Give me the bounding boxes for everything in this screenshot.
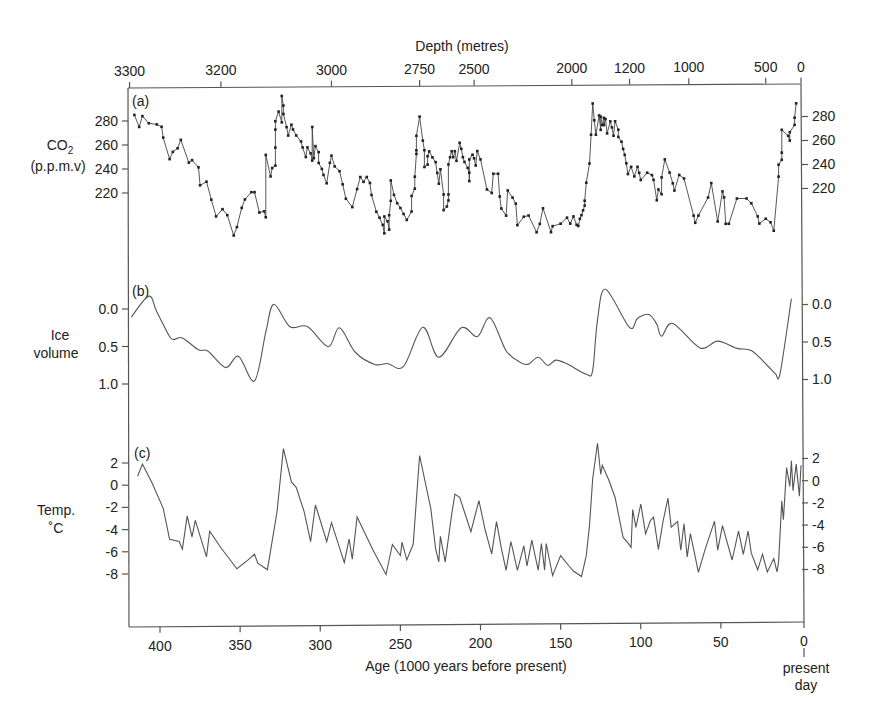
co2-data-point (617, 128, 620, 131)
temp-tick-left: 2 (110, 455, 118, 471)
temp-tick-right: -2 (812, 495, 825, 511)
co2-data-point (295, 134, 298, 137)
co2-data-point (622, 148, 625, 151)
temp-tick-left: 0 (110, 477, 118, 493)
co2-data-point (263, 210, 266, 213)
co2-label-main: CO (47, 137, 68, 153)
co2-data-point (569, 222, 572, 225)
co2-data-point (787, 134, 790, 137)
co2-data-point (141, 115, 144, 118)
co2-data-point (772, 229, 775, 232)
co2-data-point (426, 155, 429, 158)
co2-data-point (606, 132, 609, 135)
panel-b: (b) Ice volume 0.00.00.50.51.01.0 (33, 283, 831, 392)
co2-data-point (232, 234, 235, 237)
co2-data-point (191, 159, 194, 162)
depth-tick-label: 2750 (404, 61, 435, 77)
co2-data-point (604, 118, 607, 121)
co2-data-point (431, 156, 434, 159)
age-axis-ticks: 400350300250200150100500 (148, 622, 808, 654)
co2-data-point (660, 176, 663, 179)
co2-data-point (492, 172, 495, 175)
panel-c-tag: (c) (134, 445, 150, 461)
co2-data-point (280, 121, 283, 124)
co2-data-point (780, 129, 783, 132)
co2-data-point (694, 222, 697, 225)
co2-data-point (793, 124, 796, 127)
co2-data-point (341, 183, 344, 186)
co2-data-point (399, 207, 402, 210)
temp-axis-label-2: ˚C (49, 520, 64, 536)
co2-data-point (505, 214, 508, 217)
co2-data-point (282, 113, 285, 116)
co2-data-point (413, 187, 416, 190)
co2-data-point (630, 166, 633, 169)
co2-data-point (446, 205, 449, 208)
temp-tick-left: -4 (106, 522, 119, 538)
co2-data-point (449, 156, 452, 159)
co2-axis-unit: (p.p.m.v) (30, 158, 85, 174)
age-tick-label: 0 (800, 633, 808, 649)
co2-data-point (486, 188, 489, 191)
co2-data-point (365, 176, 368, 179)
co2-data-point (221, 208, 224, 211)
co2-data-point (728, 222, 731, 225)
co2-data-point (550, 231, 553, 234)
co2-data-point (527, 214, 530, 217)
co2-data-point (623, 154, 626, 157)
co2-data-point (497, 172, 500, 175)
ice-volume-series-line (131, 289, 791, 381)
co2-data-point (683, 177, 686, 180)
co2-data-point (660, 193, 663, 196)
co2-data-point (663, 158, 666, 161)
co2-data-point (476, 150, 479, 153)
temp-tick-left: -8 (106, 566, 119, 582)
co2-data-point (356, 188, 359, 191)
top-axis-title: Depth (metres) (415, 38, 508, 54)
co2-data-point (580, 214, 583, 217)
co2-data-point (463, 161, 466, 164)
co2-data-point (386, 220, 389, 223)
co2-data-point (269, 175, 272, 178)
co2-data-point (716, 220, 719, 223)
co2-data-point (447, 163, 450, 166)
present-day-label-1: present (783, 660, 830, 676)
co2-data-point (285, 126, 288, 129)
age-tick-label: 100 (629, 634, 653, 650)
co2-data-point (423, 166, 426, 169)
co2-data-point (292, 128, 295, 131)
depth-tick-label: 3000 (316, 62, 347, 78)
co2-data-point (147, 122, 150, 125)
temp-tick-right: 0 (812, 473, 820, 489)
co2-data-point (447, 199, 450, 202)
co2-data-point (322, 174, 325, 177)
co2-data-point (724, 223, 727, 226)
co2-data-point (264, 216, 267, 219)
co2-data-point (506, 189, 509, 192)
co2-data-point (479, 158, 482, 161)
co2-data-point (474, 164, 477, 167)
co2-series-line (134, 96, 796, 236)
co2-data-point (422, 139, 425, 142)
co2-data-point (577, 225, 580, 228)
co2-data-point (468, 180, 471, 183)
co2-data-point (253, 191, 256, 194)
temp-tick-right: -4 (812, 517, 825, 533)
co2-tick-right: 240 (812, 156, 836, 172)
depth-tick-label: 0 (797, 59, 805, 75)
co2-data-point (583, 199, 586, 202)
co2-series-markers (133, 95, 797, 237)
co2-data-point (697, 214, 700, 217)
co2-data-point (410, 195, 413, 198)
co2-data-point (389, 200, 392, 203)
co2-data-point (180, 139, 183, 142)
co2-data-point (305, 156, 308, 159)
co2-data-point (603, 124, 606, 127)
co2-data-point (538, 223, 541, 226)
depth-tick-label: 2000 (556, 60, 587, 76)
co2-data-point (244, 198, 247, 201)
co2-data-point (668, 171, 671, 174)
temp-tick-right: -6 (812, 539, 825, 555)
co2-data-point (454, 150, 457, 153)
co2-data-point (309, 152, 312, 155)
